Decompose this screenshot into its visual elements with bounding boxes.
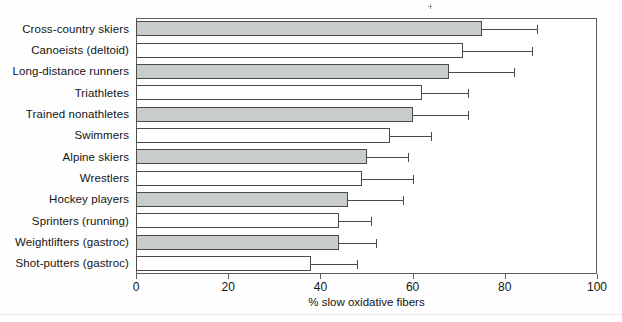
bar-row	[136, 107, 597, 122]
category-label: Triathletes	[75, 87, 129, 99]
category-label: Trained nonathletes	[26, 108, 129, 120]
x-axis-tick	[413, 274, 414, 279]
category-label: Sprinters (running)	[32, 215, 129, 227]
bar-row	[136, 192, 597, 207]
category-label: Cross-country skiers	[22, 23, 129, 35]
bar-row	[136, 171, 597, 186]
error-bar-line	[390, 136, 431, 137]
x-axis-tick-label: 100	[587, 280, 607, 294]
bar-row	[136, 213, 597, 228]
bar-row	[136, 64, 597, 79]
bar-row	[136, 43, 597, 58]
category-label: Alpine skiers	[63, 151, 130, 163]
error-bar-cap	[468, 111, 469, 120]
scan-speck-icon	[430, 4, 431, 9]
category-label: Canoeists (deltoid)	[31, 44, 129, 56]
error-bar-line	[311, 264, 357, 265]
x-axis-tick-labels: 020406080100	[136, 280, 597, 296]
error-bar-line	[463, 51, 532, 52]
category-label: Hockey players	[49, 193, 129, 205]
bars-layer	[136, 18, 597, 274]
bar	[136, 64, 449, 79]
bar	[136, 21, 482, 36]
bar	[136, 213, 339, 228]
page-edge-line	[0, 314, 622, 315]
error-bar-cap	[408, 153, 409, 162]
error-bar-cap	[468, 89, 469, 98]
error-bar-line	[422, 93, 468, 94]
error-bar-line	[339, 221, 371, 222]
bar	[136, 256, 311, 271]
bar	[136, 149, 367, 164]
category-label: Long-distance runners	[12, 65, 129, 77]
error-bar-cap	[357, 260, 358, 269]
category-label: Shot-putters (gastroc)	[16, 257, 129, 269]
error-bar-cap	[403, 196, 404, 205]
bar	[136, 85, 422, 100]
bar	[136, 192, 348, 207]
x-axis-tick	[320, 274, 321, 279]
category-label: Wrestlers	[80, 172, 129, 184]
bar-row	[136, 85, 597, 100]
error-bar-line	[367, 157, 408, 158]
x-axis-tick	[505, 274, 506, 279]
error-bar-line	[348, 200, 403, 201]
x-axis-tick	[228, 274, 229, 279]
bar	[136, 43, 463, 58]
figure-container: Cross-country skiersCanoeists (deltoid)L…	[0, 0, 622, 322]
error-bar-line	[482, 29, 537, 30]
x-axis-tick-label: 0	[133, 280, 140, 294]
x-axis-tick	[597, 274, 598, 279]
category-axis-labels: Cross-country skiersCanoeists (deltoid)L…	[0, 18, 133, 274]
category-label: Swimmers	[75, 129, 129, 141]
bar	[136, 235, 339, 250]
bar-row	[136, 21, 597, 36]
bar-row	[136, 256, 597, 271]
x-axis-tick-label: 60	[406, 280, 419, 294]
error-bar-cap	[431, 132, 432, 141]
x-axis-tick-label: 40	[314, 280, 327, 294]
bar-row	[136, 149, 597, 164]
error-bar-cap	[532, 47, 533, 56]
bar	[136, 107, 413, 122]
bar	[136, 128, 390, 143]
error-bar-cap	[413, 175, 414, 184]
error-bar-cap	[371, 217, 372, 226]
error-bar-line	[449, 72, 514, 73]
error-bar-line	[362, 179, 413, 180]
x-axis-tick	[136, 274, 137, 279]
x-axis-tick-label: 80	[498, 280, 511, 294]
category-label: Weightlifters (gastroc)	[15, 236, 129, 248]
bar-row	[136, 235, 597, 250]
bar	[136, 171, 362, 186]
error-bar-line	[339, 243, 376, 244]
error-bar-cap	[514, 68, 515, 77]
bar-row	[136, 128, 597, 143]
error-bar-cap	[376, 239, 377, 248]
error-bar-line	[413, 115, 468, 116]
x-axis-title: % slow oxidative fibers	[136, 296, 597, 308]
error-bar-cap	[537, 25, 538, 34]
x-axis-tick-label: 20	[222, 280, 235, 294]
